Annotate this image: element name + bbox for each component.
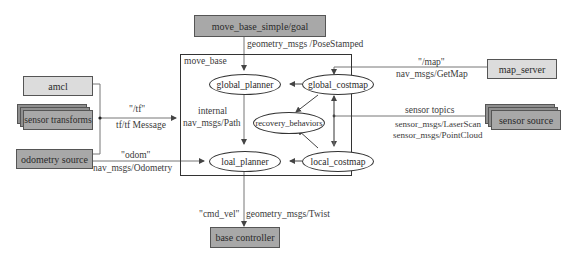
pointcloud-msg-label: sensor_msgs/PointCloud <box>393 130 483 141</box>
tf-topic-label: "/tf" <box>129 104 145 115</box>
odom-topic-label: "odom" <box>121 150 150 161</box>
map-server-node: map_server <box>487 59 557 79</box>
move-base-label: move_base <box>184 56 227 67</box>
local-costmap-node: local_costmap <box>302 151 374 172</box>
goal-node: move_base_simple/goal <box>194 15 326 37</box>
amcl-node: amcl <box>23 76 93 96</box>
global-planner-node: global_planner <box>209 74 281 95</box>
sensor-topics-label: sensor topics <box>405 105 454 116</box>
internal-label: internal <box>198 106 227 117</box>
map-msg-label: nav_msgs/GetMap <box>396 69 468 80</box>
base-controller-node: base controller <box>210 227 280 248</box>
tf-msg-label: tf/tf Message <box>116 120 166 131</box>
odom-msg-label: nav_msgs/Odometry <box>93 163 172 174</box>
odometry-source-node: odometry source <box>16 149 93 169</box>
map-topic-label: "/map" <box>418 57 445 68</box>
local-planner-node: loal_planner <box>209 151 281 172</box>
twist-msg-label: geometry_msgs/Twist <box>246 209 330 220</box>
sensor-source-node: sensor source <box>491 110 561 130</box>
path-msg-label: nav_msgs/Path <box>183 118 241 129</box>
goal-msg-label: geometry_msgs /PoseStamped <box>247 39 363 50</box>
sensor-transforms-node: sensor transforms <box>23 110 93 130</box>
global-costmap-node: global_costmap <box>302 74 374 95</box>
recovery-behaviors-node: recovery_behaviors <box>253 112 325 134</box>
cmd-vel-label: "cmd_vel" <box>199 209 239 220</box>
laser-msg-label: sensor_msgs/LaserScan <box>395 119 481 130</box>
